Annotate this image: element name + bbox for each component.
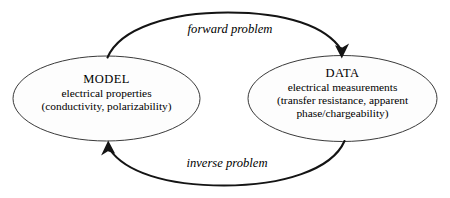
diagram-canvas: MODEL electrical properties (conductivit… [0,0,450,198]
data-title: DATA [246,66,439,80]
model-line-1: electrical properties [13,87,200,100]
model-node-label: MODEL electrical properties (conductivit… [13,72,200,113]
inverse-problem-label: inverse problem [152,156,302,171]
model-title: MODEL [13,72,200,86]
data-line-1: electrical measurements [246,81,439,94]
data-line-2: (transfer resistance, apparent [246,94,439,107]
model-line-2: (conductivity, polarizability) [13,100,200,113]
forward-problem-label: forward problem [155,22,305,37]
data-node-label: DATA electrical measurements (transfer r… [246,66,439,119]
data-line-3: phase/chargeability) [246,107,439,120]
